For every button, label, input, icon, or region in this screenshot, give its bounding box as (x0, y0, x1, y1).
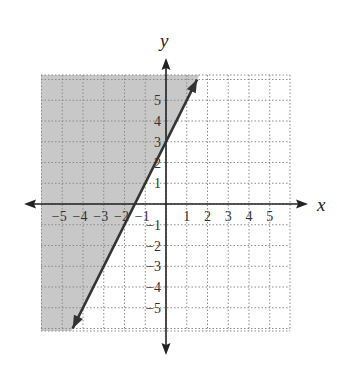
y-tick-label: 5 (154, 93, 161, 108)
shaded-region (41, 75, 199, 331)
x-tick-label: −3 (93, 209, 108, 224)
y-tick-label: −1 (146, 218, 161, 233)
x-tick-label: 5 (266, 209, 273, 224)
y-tick-label: 2 (154, 156, 161, 171)
inequality-graph: −5−4−3−2−11234554321−1−2−3−4−5 x y (0, 0, 337, 368)
x-tick-label: 3 (225, 209, 232, 224)
x-tick-label: 4 (246, 209, 253, 224)
y-tick-label: −5 (146, 301, 161, 316)
y-axis-label: y (158, 30, 169, 51)
boundary-line-lower-arrow-icon (73, 315, 83, 329)
x-tick-label: −5 (52, 209, 67, 224)
x-tick-label: 2 (204, 209, 211, 224)
x-axis-label: x (316, 194, 326, 215)
x-tick-label: 1 (183, 209, 190, 224)
y-tick-label: 1 (154, 176, 161, 191)
x-tick-label: −4 (73, 209, 88, 224)
x-tick-label: −2 (114, 209, 129, 224)
y-tick-label: −3 (146, 259, 161, 274)
y-tick-label: −2 (146, 239, 161, 254)
y-tick-label: 4 (154, 114, 161, 129)
y-tick-label: −4 (146, 280, 161, 295)
y-tick-label: 3 (154, 135, 161, 150)
